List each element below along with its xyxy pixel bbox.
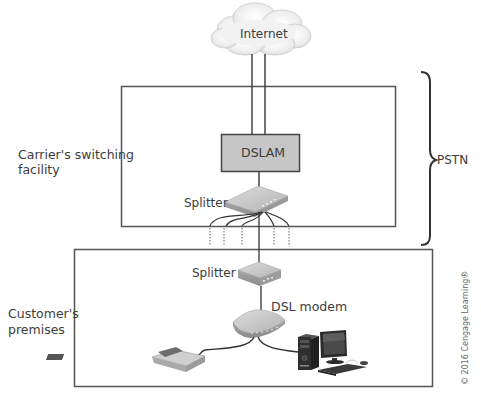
carrier-splitter-label: Splitter xyxy=(184,196,228,211)
internet-dslam-link xyxy=(252,54,265,134)
customer-splitter-label: Splitter xyxy=(192,266,236,281)
pstn-label: PSTN xyxy=(437,153,468,168)
customer-splitter-icon xyxy=(238,262,281,286)
pstn-brace-icon xyxy=(421,72,436,245)
carrier-region-label-line2: facility xyxy=(18,162,60,177)
telephone-icon xyxy=(46,347,205,372)
subscriber-line-stubs xyxy=(210,228,289,245)
customer-region-label-line2: premises xyxy=(8,322,65,337)
dslam-label: DSLAM xyxy=(241,145,285,160)
carrier-region-label-line1: Carrier's switching xyxy=(18,147,134,162)
carrier-splitter-icon xyxy=(225,186,288,217)
copyright-notice: © 2016 Cengage Learning® xyxy=(461,271,470,385)
customer-region-label-line1: Customer's xyxy=(8,306,79,321)
dsl-modem-label: DSL modem xyxy=(271,299,347,314)
desktop-computer-icon xyxy=(298,330,368,376)
modem-device-wires xyxy=(196,337,298,358)
internet-label: Internet xyxy=(240,27,288,42)
splitter-fanout-wires xyxy=(210,212,289,226)
diagram-canvas xyxy=(0,0,481,396)
